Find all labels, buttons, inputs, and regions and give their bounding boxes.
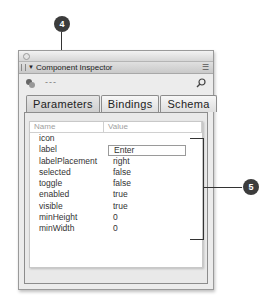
panel-title: Component Inspector	[36, 62, 113, 73]
panel-header[interactable]: ▼ Component Inspector ☰	[19, 62, 213, 74]
table-row[interactable]: minHeight 0	[30, 212, 202, 223]
param-name: visible	[30, 201, 108, 212]
callout-4: 4	[54, 16, 70, 32]
table-row[interactable]: icon	[30, 133, 202, 144]
param-name: enabled	[30, 189, 108, 200]
param-name: icon	[30, 133, 108, 144]
table-row[interactable]: toggle false	[30, 178, 202, 189]
param-name: labelPlacement	[30, 156, 108, 167]
param-value[interactable]	[108, 133, 202, 144]
tab-parameters[interactable]: Parameters	[26, 95, 100, 112]
parameters-table: Name Value icon label Enter labelPlaceme…	[29, 121, 203, 268]
pin-icon[interactable]	[196, 78, 206, 88]
param-value[interactable]: right	[108, 156, 202, 167]
component-inspector-window: ▼ Component Inspector ☰ --- Parameters B…	[18, 50, 214, 290]
param-value[interactable]: false	[108, 167, 202, 178]
column-header-name[interactable]: Name	[30, 122, 104, 132]
table-row[interactable]: label Enter	[30, 144, 202, 155]
param-value[interactable]: true	[108, 201, 202, 212]
window-titlebar[interactable]	[19, 51, 213, 62]
param-name: toggle	[30, 178, 108, 189]
param-value[interactable]: true	[108, 189, 202, 200]
grip-icon[interactable]	[21, 64, 26, 71]
table-row[interactable]: labelPlacement right	[30, 156, 202, 167]
callout-5: 5	[243, 179, 259, 195]
component-icon	[25, 78, 36, 89]
table-row[interactable]: minWidth 0	[30, 223, 202, 234]
param-name: minHeight	[30, 212, 108, 223]
component-toolbar: ---	[19, 74, 213, 94]
table-row[interactable]: visible true	[30, 201, 202, 212]
tab-bindings[interactable]: Bindings	[101, 95, 160, 112]
panel-menu-icon[interactable]: ☰	[202, 62, 209, 73]
param-value[interactable]: false	[108, 178, 202, 189]
tab-schema[interactable]: Schema	[160, 95, 216, 112]
param-name: selected	[30, 167, 108, 178]
tab-bar: Parameters Bindings Schema	[26, 95, 218, 112]
component-name: ---	[45, 77, 57, 87]
parameters-panel: Name Value icon label Enter labelPlaceme…	[24, 112, 208, 284]
param-name: minWidth	[30, 223, 108, 234]
triangle-down-icon[interactable]: ▼	[28, 62, 34, 73]
callout-5-bracket	[190, 138, 204, 240]
param-value[interactable]: 0	[108, 223, 202, 234]
close-icon[interactable]	[23, 53, 30, 60]
param-value[interactable]: 0	[108, 212, 202, 223]
callout-5-line	[203, 187, 243, 188]
table-row[interactable]: selected false	[30, 167, 202, 178]
table-header: Name Value	[30, 122, 202, 133]
table-row[interactable]: enabled true	[30, 189, 202, 200]
column-header-value[interactable]: Value	[104, 122, 202, 132]
param-name: label	[30, 144, 108, 155]
